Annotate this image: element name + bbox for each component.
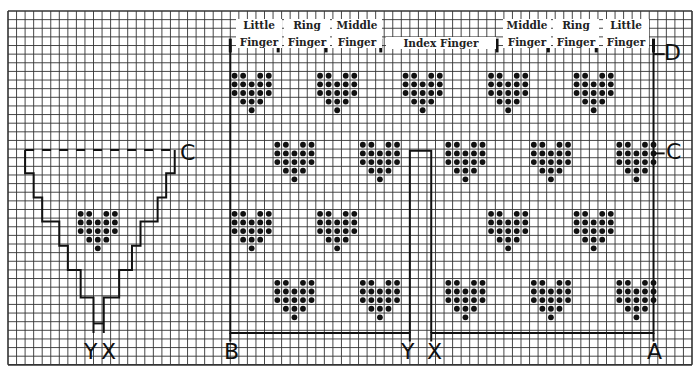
label-a: A <box>647 341 662 363</box>
finger-label: LittleFinger <box>236 19 282 48</box>
label-y-main: Y <box>401 341 414 363</box>
label-b: B <box>224 341 239 363</box>
finger-label: MiddleFinger <box>332 19 382 48</box>
finger-label-line2: Finger <box>236 36 282 48</box>
finger-label: RingFinger <box>284 19 330 48</box>
label-x-thumb: X <box>101 341 116 363</box>
label-y-thumb: Y <box>84 341 97 363</box>
finger-label-line2: Finger <box>332 36 382 48</box>
finger-label-line1: Little <box>603 19 649 31</box>
chart-grid <box>8 11 692 365</box>
finger-label-line2: Index Finger <box>386 37 496 49</box>
finger-label-line2: Finger <box>503 36 551 48</box>
label-d: D <box>664 42 681 64</box>
finger-label: LittleFinger <box>603 19 649 48</box>
label-c-right: C <box>666 141 681 163</box>
finger-label-line2: Finger <box>553 36 599 48</box>
finger-label-line1: Little <box>236 19 282 31</box>
label-x-main: X <box>427 341 442 363</box>
finger-label: MiddleFinger <box>503 19 551 48</box>
knitting-chart <box>0 0 695 371</box>
finger-label-line1: Middle <box>332 19 382 31</box>
finger-label-line1: Ring <box>553 19 599 31</box>
finger-label: Index Finger <box>386 37 496 49</box>
label-c-left: C <box>180 142 195 164</box>
finger-label: RingFinger <box>553 19 599 48</box>
finger-label-line2: Finger <box>603 36 649 48</box>
finger-label-line2: Finger <box>284 36 330 48</box>
finger-label-line1: Middle <box>503 19 551 31</box>
finger-label-line1: Ring <box>284 19 330 31</box>
